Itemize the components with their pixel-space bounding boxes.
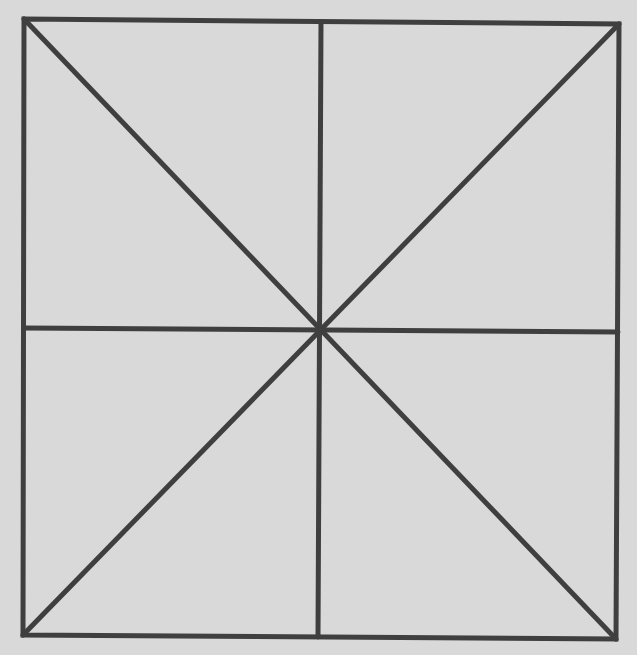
square-diagram [0,0,637,655]
